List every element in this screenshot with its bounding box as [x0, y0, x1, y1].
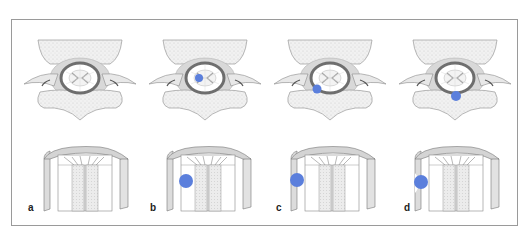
panel-a-sagittal: [44, 147, 128, 212]
panel-label-d: d: [404, 202, 410, 213]
panel-d-axial: [399, 40, 511, 120]
panel-b-axial: [149, 40, 261, 120]
lesion-intramedullary: [195, 74, 203, 82]
lesion-extradural-sag: [414, 175, 428, 189]
figure-illustration: [0, 0, 532, 237]
panel-label-b: b: [150, 202, 156, 213]
panel-label-a: a: [28, 202, 34, 213]
panel-c-axial: [274, 40, 386, 120]
panel-b-sagittal: [167, 147, 251, 212]
panel-label-c: c: [276, 202, 282, 213]
panel-c-sagittal: [290, 147, 375, 212]
panel-a-axial: [24, 40, 136, 120]
lesion-intramedullary-sag: [179, 174, 193, 188]
lesion-intradural: [313, 85, 322, 94]
lesion-intradural-sag: [290, 173, 304, 187]
lesion-extradural: [451, 91, 461, 101]
panel-d-sagittal: [414, 147, 499, 212]
